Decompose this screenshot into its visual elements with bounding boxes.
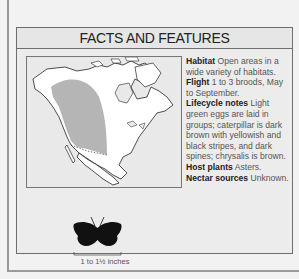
wingspan-label: 1 to 1½ inches	[75, 257, 135, 266]
fact-habitat: Habitat Open areas in a wide variety of …	[186, 56, 290, 77]
range-map	[26, 56, 182, 188]
fact-lifecycle: Lifecycle notes Light green eggs are lai…	[186, 98, 290, 162]
facts-features-panel: FACTS AND FEATURES Habitat Open areas in…	[16, 27, 293, 254]
fact-nectar: Nectar sources Unknown.	[186, 173, 290, 184]
north-america-map-icon	[27, 57, 181, 187]
facts-list: Habitat Open areas in a wide variety of …	[186, 56, 290, 183]
fact-host-plants: Host plants Asters.	[186, 162, 290, 173]
panel-title: FACTS AND FEATURES	[17, 28, 292, 49]
butterfly-silhouette-icon	[70, 216, 125, 256]
fact-flight: Flight 1 to 3 broods, May to September.	[186, 77, 290, 98]
